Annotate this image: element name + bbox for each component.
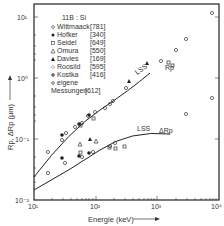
svg-text:[649]: [649] xyxy=(90,39,106,47)
svg-text:Omura: Omura xyxy=(57,47,79,54)
legend-item: Wittmaack[781] xyxy=(52,23,106,31)
lss-drp-curve xyxy=(34,133,170,190)
y-tick-label: 10⁻² xyxy=(15,197,30,204)
open-circle-icon xyxy=(52,26,55,29)
legend-item: Kostka[416] xyxy=(52,71,106,79)
dotted-circle-icon xyxy=(52,66,55,69)
svg-text:Hofker: Hofker xyxy=(57,31,78,38)
x-tick-label: 10¹ xyxy=(28,203,39,210)
y-axis-label: Rp, ΔRp (µm) xyxy=(6,103,15,150)
chart-title: 11B : Si xyxy=(62,14,86,21)
chart-svg: 10¹ 10² 10³ 10⁴ 10¹ 10⁰ 10⁻¹ 10⁻² Energi… xyxy=(0,0,224,226)
legend: 11B : Si Wittmaack[781] Hofker[340] Seid… xyxy=(51,14,106,95)
y-tick-label: 10⁰ xyxy=(17,75,28,82)
x-tick-label: 10⁴ xyxy=(211,203,222,210)
svg-text:[416]: [416] xyxy=(90,71,106,79)
svg-text:[781]: [781] xyxy=(90,23,106,31)
svg-text:[340]: [340] xyxy=(90,31,106,39)
svg-text:[612]: [612] xyxy=(85,87,101,95)
open-square-icon xyxy=(52,42,55,45)
legend-item: Seidel[649] xyxy=(52,39,106,47)
svg-text:Wittmaack: Wittmaack xyxy=(57,23,90,30)
svg-text:Messungen: Messungen xyxy=(51,87,87,95)
x-tick-label: 10² xyxy=(90,203,101,210)
svg-text:eigene: eigene xyxy=(57,79,78,87)
legend-item: eigene xyxy=(52,79,79,87)
filled-circle-icon xyxy=(52,34,55,37)
filled-triangle-icon xyxy=(51,57,55,61)
svg-text:Roosild: Roosild xyxy=(57,63,80,70)
hatched-circle-icon xyxy=(52,74,55,77)
svg-text:[595]: [595] xyxy=(90,63,106,71)
svg-text:Kostka: Kostka xyxy=(57,71,79,78)
legend-item: Omura[550] xyxy=(51,47,106,55)
legend-item: Messungen[612] xyxy=(51,87,101,95)
legend-item: Davies[169] xyxy=(51,55,106,63)
legend-item: Roosild[595] xyxy=(52,63,106,71)
legend-item: Hofker[340] xyxy=(52,31,106,39)
y-tick-label: 10⁻¹ xyxy=(15,136,30,143)
svg-text:[550]: [550] xyxy=(90,47,106,55)
svg-text:Seidel: Seidel xyxy=(57,39,77,46)
drp-symbol: ΔRp xyxy=(159,127,173,135)
lss-drp-label: LSS xyxy=(137,125,151,132)
y-axis-arrow xyxy=(8,75,12,100)
x-axis-ticks xyxy=(52,196,216,200)
svg-text:[169]: [169] xyxy=(90,55,106,63)
x-axis-arrow xyxy=(133,217,160,221)
x-axis-label: Energie (keV) xyxy=(88,215,134,224)
open-triangle-icon xyxy=(51,49,55,53)
rp-symbol: Rp xyxy=(165,64,174,72)
svg-text:Davies: Davies xyxy=(57,55,79,62)
x-tick-label: 10³ xyxy=(151,203,162,210)
y-tick-label: 10¹ xyxy=(17,14,28,21)
